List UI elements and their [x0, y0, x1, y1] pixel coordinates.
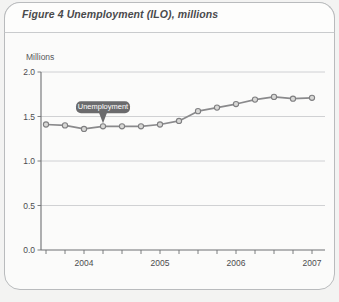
data-point-marker — [176, 118, 181, 123]
callout-pointer-icon — [99, 113, 107, 124]
y-axis-ticks-group: 0.00.51.01.52.0 — [23, 67, 41, 255]
data-point-marker — [271, 94, 276, 99]
x-axis-tick-label: 2006 — [227, 258, 246, 268]
line-chart: 0.00.51.01.52.0 2004200520062007 Unemplo… — [0, 0, 339, 302]
data-point-marker — [138, 124, 143, 129]
y-axis-tick-label: 1.0 — [23, 156, 35, 166]
data-point-marker — [43, 122, 48, 127]
gridlines-group — [41, 72, 325, 206]
chart-container: Millions 0.00.51.01.52.0 200420052006200… — [0, 0, 339, 302]
data-point-marker — [157, 122, 162, 127]
data-point-marker — [195, 109, 200, 114]
y-axis-tick-label: 0.0 — [23, 245, 35, 255]
y-axis-tick-label: 0.5 — [23, 201, 35, 211]
unemployment-callout: Unemployment — [76, 101, 130, 123]
data-point-marker — [309, 95, 314, 100]
data-point-marker — [233, 101, 238, 106]
data-point-marker — [290, 96, 295, 101]
data-point-marker — [214, 105, 219, 110]
x-axis-tick-label: 2004 — [75, 258, 94, 268]
data-point-marker — [62, 123, 67, 128]
data-point-marker — [252, 97, 257, 102]
data-point-marker — [81, 126, 86, 131]
x-axis-tick-label: 2007 — [303, 258, 322, 268]
x-axis-tick-label: 2005 — [151, 258, 170, 268]
y-axis-tick-label: 2.0 — [23, 67, 35, 77]
y-axis-tick-label: 1.5 — [23, 112, 35, 122]
callout-label: Unemployment — [78, 102, 129, 111]
data-point-marker — [100, 124, 105, 129]
data-point-marker — [119, 124, 124, 129]
x-axis-ticks-group: 2004200520062007 — [46, 250, 322, 268]
